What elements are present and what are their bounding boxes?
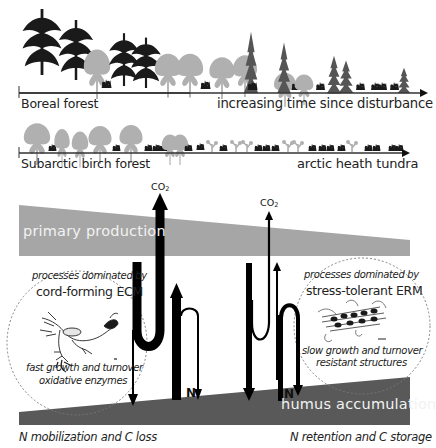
n-right-label: N — [284, 387, 294, 401]
ecm-outcome: N mobilization and C loss — [19, 430, 157, 444]
ecm-intro: processes dominated by — [32, 270, 147, 281]
co2-left-label: CO2 — [151, 181, 169, 193]
ecm-title: cord-forming ECM — [36, 284, 143, 299]
boreal-forest-label: Boreal forest — [21, 96, 98, 111]
subarctic-birch-label: Subarctic birch forest — [21, 156, 150, 171]
primary-production-label: primary production — [23, 223, 166, 239]
erm-outcome: N retention and C storage — [290, 430, 432, 444]
arctic-tundra-label: arctic heath tundra — [297, 156, 418, 171]
time-axis-label: increasing time since disturbance — [217, 96, 433, 111]
ecm-trait-enzymes: oxidative enzymes — [39, 375, 127, 386]
humus-accumulation-label: humus accumulation — [281, 396, 436, 412]
erm-title: stress-tolerant ERM — [306, 283, 422, 298]
n-left-label: N — [186, 386, 196, 400]
erm-intro: processes dominated by — [304, 269, 419, 280]
erm-trait-growth: slow growth and turnover — [302, 345, 422, 356]
erm-trait-structures: resistant structures — [316, 357, 407, 368]
erm-hyphae-illustration — [318, 300, 386, 341]
ecm-trait-growth: fast growth and turnover — [26, 362, 143, 373]
co2-right-label: CO2 — [260, 197, 278, 209]
